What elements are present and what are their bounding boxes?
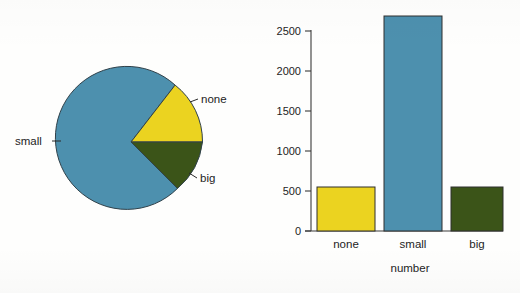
- pie-label-none: none: [201, 93, 227, 105]
- bar-small[interactable]: [384, 16, 442, 231]
- y-tick-label-1500: 1500: [277, 105, 301, 117]
- bar-big[interactable]: [451, 187, 503, 231]
- pie-chart-svg: none small big: [0, 0, 260, 293]
- y-tick-label-500: 500: [283, 185, 301, 197]
- bar-chart-panel: 0 500 1000 1500 2000 2500 none small big…: [260, 0, 520, 293]
- x-category-label-big: big: [469, 238, 484, 250]
- y-tick-label-2000: 2000: [277, 65, 301, 77]
- x-axis-title: number: [391, 262, 430, 274]
- pie-leader-none: [190, 99, 198, 102]
- pie-chart-panel: none small big: [0, 0, 260, 293]
- y-tick-label-0: 0: [295, 225, 301, 237]
- x-category-label-small: small: [400, 238, 427, 250]
- bar-none[interactable]: [317, 187, 375, 231]
- pie-label-big: big: [200, 172, 215, 184]
- y-tick-label-1000: 1000: [277, 145, 301, 157]
- x-category-label-none: none: [333, 238, 359, 250]
- figure-container: none small big 0 500 1000: [0, 0, 520, 293]
- bar-chart-svg: 0 500 1000 1500 2000 2500 none small big…: [260, 0, 520, 293]
- y-tick-label-2500: 2500: [277, 25, 301, 37]
- pie-label-small: small: [15, 135, 42, 147]
